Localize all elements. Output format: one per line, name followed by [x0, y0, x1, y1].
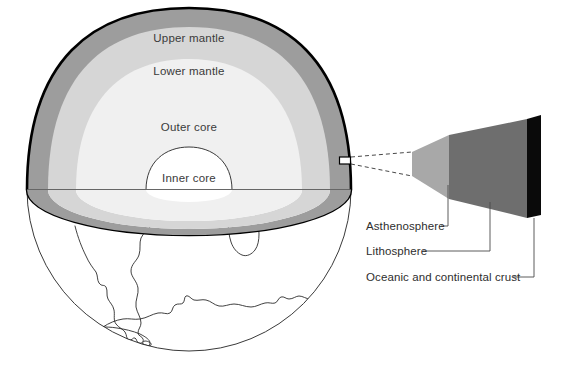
crust-sample-marker[interactable]	[340, 157, 351, 164]
wedge-band-crust[interactable]	[527, 115, 541, 218]
magnifier-wedge	[412, 115, 541, 218]
label-upper-mantle: Upper mantle	[153, 32, 224, 44]
label-outer-core: Outer core	[161, 121, 217, 133]
callout-asthenosphere: Asthenosphere	[366, 220, 445, 232]
magnifier-connector-top	[351, 152, 412, 157]
wedge-band-asthenosphere[interactable]	[412, 135, 449, 199]
wedge-band-lithosphere[interactable]	[449, 119, 527, 218]
callout-lithosphere: Lithosphere	[366, 245, 427, 257]
diagram-canvas: Upper mantle Lower mantle Outer core Inn…	[0, 0, 574, 373]
earth-structure-diagram: Upper mantle Lower mantle Outer core Inn…	[0, 0, 574, 373]
callout-crust: Oceanic and continental crust	[366, 271, 521, 283]
label-inner-core: Inner core	[162, 172, 216, 184]
leader-crust	[513, 218, 534, 277]
label-lower-mantle: Lower mantle	[153, 65, 224, 77]
magnifier-connector-bottom	[351, 164, 412, 176]
